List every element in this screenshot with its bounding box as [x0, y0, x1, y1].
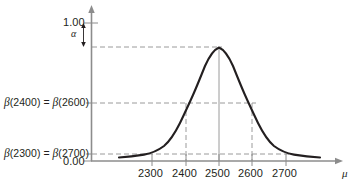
y-tick-label-0-00: 0.00 [63, 156, 85, 167]
x-tick-label-2400: 2400 [172, 168, 197, 179]
x-axis-ticks [152, 154, 286, 166]
beta-2300-arg: (2300) [10, 147, 41, 159]
alpha-symbol-label: α [71, 29, 76, 39]
x-tick-label-2300: 2300 [138, 168, 163, 179]
x-tick-label-2700: 2700 [272, 168, 297, 179]
x-tick-label-2600: 2600 [238, 168, 263, 179]
y-tick-label-1-00: 1.00 [63, 17, 85, 28]
beta-2400-2600-label: β(2400) = β(2600) [4, 97, 89, 109]
y-axis-arrowhead [88, 5, 94, 13]
beta-2400-arg: (2400) [10, 96, 41, 108]
x-axis-label-mu: μ [342, 168, 348, 179]
beta-upper-equals: = [40, 96, 52, 108]
beta-lower-equals: = [40, 147, 52, 159]
x-tick-label-2500: 2500 [205, 168, 230, 179]
alpha-arrowhead-down [81, 42, 86, 47]
x-axis-arrowhead [335, 158, 343, 164]
y-axis [84, 5, 98, 161]
beta-2600-arg: (2600) [58, 96, 89, 108]
vertical-reference-lines [186, 47, 252, 161]
caption-clipped-strip [0, 181, 359, 185]
operating-characteristic-figure: 1.00 α β(2400) = β(2600) β(2300) = β(270… [0, 0, 359, 185]
